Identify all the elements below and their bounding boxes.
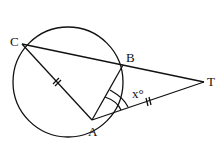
circle — [13, 27, 123, 137]
geometry-diagram: C B A T x° — [0, 0, 217, 142]
angle-label: x° — [132, 86, 144, 101]
label-T: T — [207, 74, 215, 89]
segment-AT — [92, 82, 204, 120]
segment-AB — [92, 65, 123, 120]
label-C: C — [10, 34, 19, 49]
label-A: A — [88, 124, 98, 139]
label-B: B — [126, 50, 135, 65]
segment-CA — [22, 44, 92, 120]
angle-arc-outer — [110, 90, 128, 107]
